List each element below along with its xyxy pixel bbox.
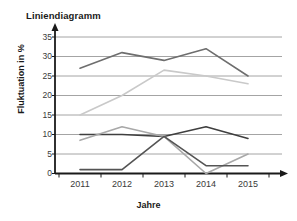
series-line-5: [80, 136, 248, 169]
line-chart: Liniendiagramm Fluktuation in % Jahre 35…: [0, 0, 297, 221]
series-line-2: [80, 70, 248, 115]
plot-area: [0, 0, 297, 221]
series-line-1: [80, 49, 248, 76]
series-lines: [80, 49, 248, 174]
gridlines: [55, 37, 282, 174]
